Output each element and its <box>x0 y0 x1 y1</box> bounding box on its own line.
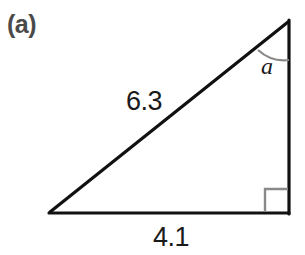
base-length-label: 4.1 <box>153 224 189 251</box>
right-angle-square-icon <box>265 189 288 212</box>
hypotenuse-length-label: 6.3 <box>126 88 162 115</box>
geometry-figure: (a) 6.3 4.1 a <box>0 0 305 255</box>
hypotenuse-line <box>50 22 288 212</box>
panel-label: (a) <box>7 12 36 37</box>
triangle-diagram-svg <box>0 0 305 255</box>
apex-angle-label: a <box>261 54 273 78</box>
